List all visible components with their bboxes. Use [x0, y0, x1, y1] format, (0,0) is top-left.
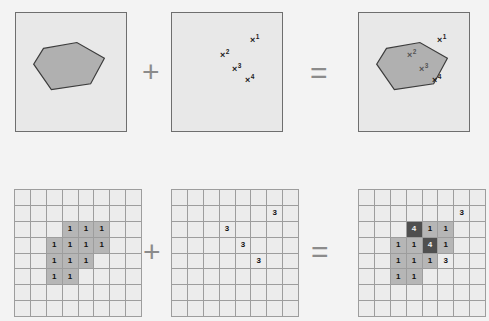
grid-cell: 3 — [235, 237, 251, 253]
grid-cell — [187, 301, 203, 317]
grid-cell — [470, 221, 486, 237]
grid-cell — [454, 301, 470, 317]
x-icon: × — [432, 75, 437, 85]
grid-cell — [374, 237, 390, 253]
point-marker-1: ×1 — [437, 34, 446, 45]
grid-cell — [267, 253, 283, 269]
grid-cell — [406, 301, 422, 317]
grid-cell: 1 — [62, 253, 78, 269]
grid-cell — [203, 221, 219, 237]
grid-cell: 1 — [46, 253, 62, 269]
grid-cell — [94, 285, 110, 301]
grid-cell — [470, 253, 486, 269]
grid-cell — [203, 190, 219, 206]
grid-row — [359, 301, 486, 317]
grid-cell — [374, 221, 390, 237]
x-icon: × — [437, 35, 442, 45]
grid-cell — [390, 205, 406, 221]
grid-cell — [235, 301, 251, 317]
grid-cell — [267, 285, 283, 301]
grid-cell — [438, 190, 454, 206]
grid-cell — [359, 237, 375, 253]
point-marker-2: ×2 — [407, 49, 416, 60]
grid-cell — [390, 285, 406, 301]
grid-cell — [251, 205, 267, 221]
grid-cell — [251, 285, 267, 301]
grid-cell — [15, 285, 31, 301]
grid-cell — [172, 269, 188, 285]
x-icon: × — [220, 50, 225, 60]
grid-cell — [406, 205, 422, 221]
grid-cell — [94, 301, 110, 317]
shape-grid: 111111111111 — [14, 189, 142, 317]
point-marker-4: ×4 — [432, 74, 441, 85]
grid-cell — [46, 285, 62, 301]
grid-row — [172, 285, 299, 301]
grid-cell: 1 — [62, 269, 78, 285]
grid-cell — [235, 190, 251, 206]
grid-cell: 3 — [438, 253, 454, 269]
grid-cell — [359, 205, 375, 221]
grid-row — [15, 205, 142, 221]
grid-cell: 1 — [406, 269, 422, 285]
grid-cell — [78, 301, 94, 317]
grid-cell — [203, 285, 219, 301]
grid-row: 411 — [359, 221, 486, 237]
grid-cell — [110, 301, 126, 317]
grid-cell — [390, 301, 406, 317]
grid-row: 3 — [359, 205, 486, 221]
grid-row — [15, 285, 142, 301]
grid-cell — [283, 237, 299, 253]
grid-cell — [126, 269, 142, 285]
grid-cell: 1 — [390, 237, 406, 253]
grid-cell — [30, 205, 46, 221]
grid-row: 111 — [15, 253, 142, 269]
grid-cell — [267, 221, 283, 237]
grid-cell — [15, 221, 31, 237]
grid-cell — [187, 205, 203, 221]
grid-cell — [187, 237, 203, 253]
grid-cell — [172, 221, 188, 237]
grid-cell — [438, 301, 454, 317]
grid-cell — [78, 285, 94, 301]
point-index-label: 1 — [256, 33, 260, 40]
grid-cell: 3 — [219, 221, 235, 237]
grid-cell — [283, 269, 299, 285]
grid-cell — [470, 285, 486, 301]
grid-row: 11 — [359, 269, 486, 285]
grid-cell: 3 — [267, 205, 283, 221]
grid-cell — [172, 190, 188, 206]
grid-cell — [203, 253, 219, 269]
point-index-label: 2 — [226, 48, 230, 55]
grid-cell — [110, 237, 126, 253]
point-marker-3: ×3 — [419, 63, 428, 74]
grid-cell — [267, 190, 283, 206]
grid-cell — [438, 269, 454, 285]
point-index-label: 4 — [438, 73, 442, 80]
grid-cell — [454, 253, 470, 269]
operator-plus-bottom: + — [143, 237, 161, 267]
grid-cell — [203, 205, 219, 221]
grid-row — [172, 190, 299, 206]
grid-cell: 1 — [406, 237, 422, 253]
grid-cell — [235, 269, 251, 285]
grid-cell — [235, 253, 251, 269]
grid-cell — [251, 301, 267, 317]
grid-cell — [126, 221, 142, 237]
grid-row: 3 — [172, 205, 299, 221]
grid-cell — [62, 301, 78, 317]
grid-cell — [94, 253, 110, 269]
grid-cell — [235, 205, 251, 221]
grid-cell: 1 — [422, 221, 438, 237]
grid-cell — [78, 269, 94, 285]
grid-cell — [78, 205, 94, 221]
grid-cell — [470, 190, 486, 206]
grid-cell — [374, 190, 390, 206]
grid-cell — [187, 285, 203, 301]
grid-cell — [30, 221, 46, 237]
grid-cell — [30, 269, 46, 285]
grid-cell — [283, 285, 299, 301]
grid-cell — [470, 237, 486, 253]
grid-cell: 1 — [438, 237, 454, 253]
grid-cell: 1 — [62, 237, 78, 253]
